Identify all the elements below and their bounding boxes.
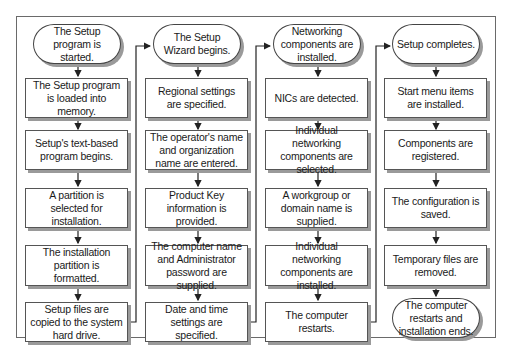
process-step: The computer name and Administrator pass… bbox=[145, 245, 248, 286]
process-step: The computer restarts. bbox=[265, 302, 368, 342]
process-step: Temporary files are removed. bbox=[384, 245, 487, 286]
process-step: The operator's name and organization nam… bbox=[145, 130, 248, 170]
phase-terminal: The Setup Wizard begins. bbox=[153, 24, 241, 64]
process-step: Product Key information is provided. bbox=[145, 188, 248, 228]
process-step: Setup's text-based program begins. bbox=[25, 130, 128, 170]
phase-terminal: Setup completes. bbox=[392, 24, 480, 64]
process-step: Start menu items are installed. bbox=[384, 78, 487, 118]
process-step: Individual networking components are ins… bbox=[265, 245, 368, 286]
process-step: Individual networking components are sel… bbox=[265, 130, 368, 170]
process-step: Regional settings are specified. bbox=[145, 78, 248, 118]
process-step: Date and time settings are specified. bbox=[145, 302, 248, 342]
process-step: The configuration is saved. bbox=[384, 188, 487, 228]
process-step: The Setup program is loaded into memory. bbox=[25, 78, 128, 118]
process-step: The installation partition is formatted. bbox=[25, 245, 128, 286]
process-step: Components are registered. bbox=[384, 130, 487, 170]
end-terminal: The computer restarts and installation e… bbox=[392, 298, 480, 338]
diagram-frame bbox=[16, 16, 496, 338]
phase-terminal: Networking components are installed. bbox=[273, 24, 361, 64]
process-step: A workgroup or domain name is supplied. bbox=[265, 188, 368, 228]
process-step: A partition is selected for installation… bbox=[25, 188, 128, 228]
process-step: NICs are detected. bbox=[265, 78, 368, 118]
process-step: Setup files are copied to the system har… bbox=[25, 302, 128, 342]
start-terminal: The Setup program is started. bbox=[33, 24, 121, 64]
